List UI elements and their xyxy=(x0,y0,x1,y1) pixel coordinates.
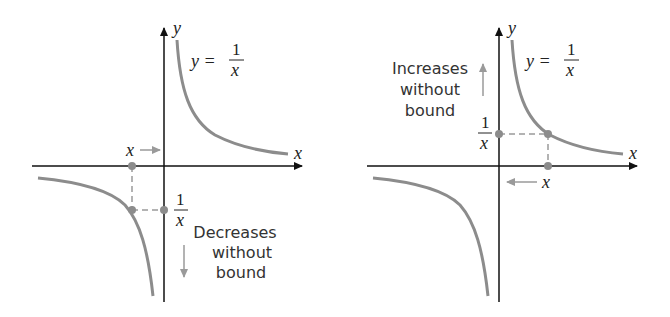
point-reciprocal xyxy=(160,206,168,214)
y-axis-label: y xyxy=(506,18,516,38)
annotation-increases: Increases without bound xyxy=(392,59,468,120)
svg-text:1: 1 xyxy=(481,113,490,132)
right-panel: y x y = 1 x 1 x x Increases without boun… xyxy=(367,18,637,302)
y-axis-label: y xyxy=(171,18,181,38)
left-panel: y x y = 1 x x 1 x Decreases without boun… xyxy=(32,18,302,302)
svg-text:1: 1 xyxy=(232,40,241,59)
svg-text:Decreases: Decreases xyxy=(193,223,276,242)
x-value-label: x xyxy=(125,140,134,160)
curve-branch-negative xyxy=(373,178,488,296)
svg-text:x: x xyxy=(230,60,239,80)
reciprocal-label: 1 x xyxy=(478,113,492,153)
svg-text:y =: y = xyxy=(524,51,551,71)
svg-text:x: x xyxy=(565,60,574,80)
reciprocal-label: 1 x xyxy=(174,190,188,230)
curve-branch-negative xyxy=(38,178,153,296)
svg-text:1: 1 xyxy=(567,40,576,59)
point-x xyxy=(544,162,552,170)
svg-text:x: x xyxy=(479,133,488,153)
x-axis-label: x xyxy=(628,143,637,163)
equation-label: y = 1 x xyxy=(524,40,579,80)
svg-text:y =: y = xyxy=(189,51,216,71)
point-curve xyxy=(544,130,552,138)
svg-text:without: without xyxy=(400,80,460,99)
point-reciprocal xyxy=(495,130,503,138)
svg-text:bound: bound xyxy=(216,263,266,282)
annotation-decreases: Decreases without bound xyxy=(193,223,276,282)
reciprocal-function-figure: y x y = 1 x x 1 x Decreases without boun… xyxy=(0,0,670,317)
svg-text:Increases: Increases xyxy=(392,59,468,78)
x-axis-label: x xyxy=(293,143,302,163)
equation-label: y = 1 x xyxy=(189,40,244,80)
point-curve xyxy=(128,206,136,214)
x-value-label: x xyxy=(541,172,550,192)
point-x xyxy=(128,162,136,170)
svg-text:1: 1 xyxy=(176,190,185,209)
svg-text:without: without xyxy=(212,243,272,262)
svg-text:x: x xyxy=(175,210,184,230)
svg-text:bound: bound xyxy=(405,101,455,120)
